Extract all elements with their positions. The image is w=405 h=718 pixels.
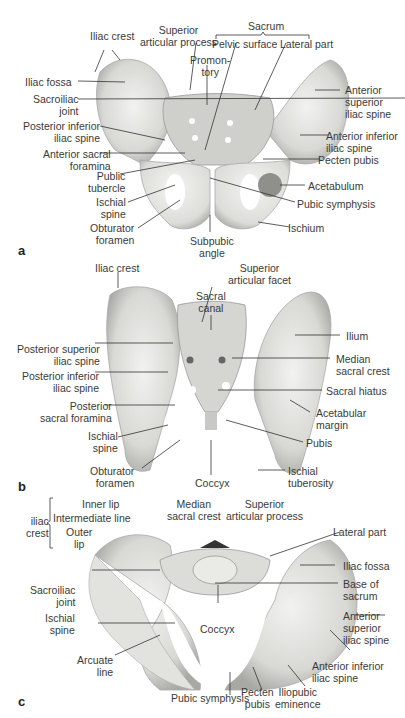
- label-iliopubic-eminence: Iliopubic eminence: [275, 686, 321, 710]
- label-arcuate-line: Arcuate line: [77, 654, 113, 678]
- label-ischial-spine-c: Ischial spine: [45, 612, 75, 636]
- label-lateral-part-c: Lateral part: [333, 526, 386, 538]
- label-anterior-inferior-iliac-spine-c: Anterior inferior iliac spine: [312, 660, 384, 684]
- label-base-of-sacrum: Base of sacrum: [343, 578, 379, 602]
- panel-c: iliac crest Inner lip Intermediate line …: [0, 0, 405, 718]
- label-iliac-fossa-c: Iliac fossa: [343, 560, 390, 572]
- label-outer-lip: Outer lip: [66, 526, 92, 550]
- label-pecten-pubis-c: Pecten pubis: [241, 686, 274, 710]
- label-sacroiliac-joint-c: Sacroiliac joint: [30, 584, 76, 608]
- label-median-sacral-crest-c: Median sacral crest: [167, 498, 221, 522]
- label-intermediate-line: Intermediate line: [53, 512, 131, 524]
- label-anterior-superior-iliac-spine-c: Anterior superior iliac spine: [343, 610, 389, 646]
- label-pubic-symphysis-c: Pubic symphysis: [171, 692, 249, 704]
- label-coccyx-c: Coccyx: [200, 623, 234, 635]
- panel-letter-c: c: [18, 694, 25, 709]
- label-superior-articular-process-c: Superior articular process: [226, 498, 303, 522]
- label-inner-lip: Inner lip: [82, 498, 119, 510]
